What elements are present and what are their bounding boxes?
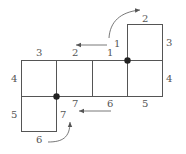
- label-row-top-1: 3: [36, 47, 42, 58]
- vertex-dot-lower: [53, 93, 59, 99]
- bottom-square: [22, 97, 57, 132]
- row-square-2: [57, 61, 93, 97]
- label-row-bottom-4: 5: [142, 98, 148, 109]
- label-bottom-right-edge: 7: [60, 109, 66, 120]
- label-top-top-edge: 2: [142, 13, 148, 24]
- cube-net-diagram: 1 2 3 3 2 1 4 4 7 6 5 5 6 7: [0, 0, 186, 154]
- row-square-1: [22, 61, 57, 97]
- label-row-top-3: 1: [107, 47, 113, 58]
- top-square: [128, 25, 163, 61]
- label-bottom-bottom-edge: 6: [36, 134, 42, 145]
- label-row-right-edge: 4: [166, 73, 172, 84]
- label-row-left-edge: 4: [11, 73, 17, 84]
- label-row-bottom-3: 6: [107, 98, 113, 109]
- label-top-right-edge: 3: [166, 37, 172, 48]
- row-square-4: [128, 61, 163, 97]
- label-top-left-edge: 1: [114, 38, 120, 49]
- label-bottom-left-edge: 5: [11, 109, 17, 120]
- label-row-bottom-2: 7: [72, 98, 78, 109]
- label-row-top-2: 2: [72, 47, 78, 58]
- vertex-dot-upper: [124, 57, 130, 63]
- row-square-3: [92, 61, 128, 97]
